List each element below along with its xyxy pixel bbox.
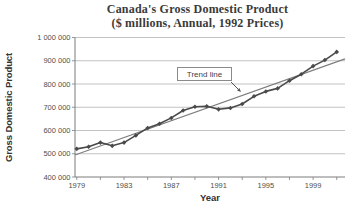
y-tick-label: 600 000 [43, 126, 70, 135]
x-tick-label: 1987 [163, 181, 180, 190]
y-tick-label: 1 000 000 [37, 33, 70, 42]
y-tick-label: 900 000 [43, 56, 70, 65]
trend-annotation-arrow [231, 82, 238, 89]
data-point-marker [86, 144, 91, 149]
data-point-marker [98, 140, 103, 145]
plot-area: 400 000500 000600 000700 000800 000900 0… [0, 0, 355, 215]
data-point-marker [264, 89, 269, 94]
data-point-marker [110, 144, 115, 149]
x-tick-label: 1983 [116, 181, 133, 190]
y-tick-label: 800 000 [43, 80, 70, 89]
x-tick-label: 1999 [305, 181, 322, 190]
data-point-marker [193, 104, 198, 109]
y-tick-label: 700 000 [43, 103, 70, 112]
y-tick-label: 500 000 [43, 149, 70, 158]
data-point-marker [228, 106, 233, 111]
gdp-chart-figure: Canada's Gross Domestic Product ($ milli… [0, 0, 355, 215]
data-point-marker [216, 107, 221, 112]
x-axis-title: Year [75, 192, 345, 203]
x-tick-label: 1995 [257, 181, 274, 190]
trend-line-annotation: Trend line [177, 67, 232, 81]
x-tick-label: 1979 [68, 181, 85, 190]
x-tick-label: 1991 [210, 181, 227, 190]
y-tick-label: 400 000 [43, 173, 70, 182]
